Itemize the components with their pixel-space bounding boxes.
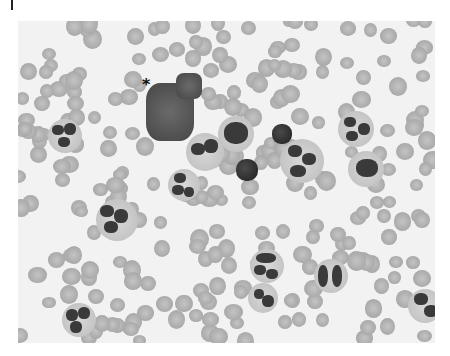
- nucleus-lobe: [204, 139, 218, 153]
- red-blood-cell: [364, 23, 377, 37]
- white-blood-cell: [348, 151, 384, 187]
- red-blood-cell: [394, 212, 412, 230]
- red-blood-cell: [209, 277, 225, 295]
- red-blood-cell: [125, 127, 140, 140]
- lymphocyte: [272, 124, 292, 144]
- red-blood-cell: [417, 330, 432, 343]
- red-blood-cell: [365, 299, 383, 318]
- white-blood-cell: [314, 259, 348, 293]
- red-blood-cell: [340, 21, 356, 36]
- red-blood-cell: [75, 206, 89, 218]
- red-blood-cell: [413, 270, 432, 287]
- red-blood-cell: [291, 108, 309, 125]
- red-blood-cell: [48, 252, 65, 268]
- red-blood-cell: [185, 50, 201, 67]
- red-blood-cell: [113, 256, 127, 268]
- nucleus-lobe: [414, 293, 428, 305]
- red-blood-cell: [352, 91, 371, 108]
- red-blood-cell: [132, 53, 146, 65]
- red-blood-cell: [18, 199, 30, 217]
- red-blood-cell: [287, 21, 303, 29]
- white-blood-cell: [96, 199, 138, 241]
- red-blood-cell: [380, 124, 394, 137]
- red-blood-cell: [268, 45, 282, 58]
- red-blood-cell: [201, 87, 215, 101]
- nucleus-lobe: [174, 173, 186, 183]
- nucleus-lobe: [64, 123, 76, 135]
- red-blood-cell: [411, 47, 427, 64]
- nucleus-lobe: [104, 221, 118, 233]
- red-blood-cell: [347, 251, 366, 271]
- nucleus-lobe: [70, 321, 82, 333]
- red-blood-cell: [20, 63, 37, 81]
- red-blood-cell: [28, 267, 47, 284]
- red-blood-cell: [374, 278, 389, 294]
- nucleus-lobe: [346, 131, 358, 141]
- nucleus-lobe: [288, 145, 302, 157]
- red-blood-cell: [152, 47, 169, 62]
- red-blood-cell: [136, 137, 154, 156]
- red-blood-cell: [315, 48, 333, 66]
- blood-smear-image: *: [18, 21, 435, 343]
- asterisk-annotation: *: [142, 77, 150, 93]
- nucleus-lobe: [318, 265, 328, 287]
- nucleus-lobe: [52, 125, 64, 135]
- red-blood-cell: [255, 226, 271, 240]
- red-blood-cell: [208, 246, 223, 262]
- red-blood-cell: [356, 206, 369, 219]
- red-blood-cell: [306, 230, 319, 244]
- red-blood-cell: [415, 105, 429, 117]
- red-blood-cell: [154, 216, 168, 229]
- red-blood-cell: [380, 28, 397, 43]
- red-blood-cell: [156, 296, 173, 312]
- white-blood-cell: [48, 119, 82, 153]
- red-blood-cell: [278, 315, 292, 329]
- white-blood-cell: [62, 303, 96, 337]
- white-blood-cell: [408, 289, 435, 323]
- nucleus-lobe: [254, 265, 266, 275]
- red-blood-cell: [381, 229, 396, 245]
- nucleus-lobe: [114, 209, 128, 223]
- red-blood-cell: [155, 21, 170, 34]
- red-blood-cell: [127, 28, 145, 45]
- red-blood-cell: [175, 295, 192, 313]
- red-blood-cell: [66, 246, 83, 264]
- red-blood-cell: [237, 332, 254, 343]
- red-blood-cell: [154, 240, 170, 257]
- nucleus-lobe: [172, 185, 184, 195]
- red-blood-cell: [67, 96, 84, 111]
- red-blood-cell: [18, 328, 28, 343]
- red-blood-cell: [189, 309, 203, 322]
- red-blood-cell: [209, 224, 225, 238]
- red-blood-cell: [316, 65, 330, 80]
- red-blood-cell: [110, 298, 126, 312]
- red-blood-cell: [18, 170, 26, 183]
- red-blood-cell: [147, 177, 160, 190]
- red-blood-cell: [251, 75, 268, 94]
- red-blood-cell: [356, 70, 371, 84]
- nucleus-lobe: [184, 187, 194, 197]
- red-blood-cell: [189, 35, 203, 50]
- red-blood-cell: [416, 70, 430, 82]
- red-blood-cell: [292, 312, 306, 327]
- red-blood-cell: [312, 116, 325, 129]
- red-blood-cell: [198, 291, 214, 305]
- red-blood-cell: [234, 285, 249, 299]
- nucleus-lobe: [356, 159, 378, 177]
- red-blood-cell: [202, 312, 219, 327]
- asterisk-marked-cell: [176, 73, 202, 99]
- nucleus-lobe: [224, 122, 248, 144]
- nucleus-lobe: [58, 137, 70, 147]
- white-blood-cell: [280, 139, 324, 183]
- red-blood-cell: [216, 30, 231, 44]
- red-blood-cell: [383, 196, 397, 208]
- nucleus-lobe: [66, 309, 78, 321]
- corner-mark: [11, 0, 13, 10]
- red-blood-cell: [221, 257, 237, 274]
- red-blood-cell: [317, 171, 336, 191]
- red-blood-cell: [203, 63, 219, 78]
- nucleus-lobe: [358, 123, 370, 135]
- red-blood-cell: [276, 224, 290, 239]
- red-blood-cell: [340, 57, 354, 69]
- red-blood-cell: [377, 55, 391, 67]
